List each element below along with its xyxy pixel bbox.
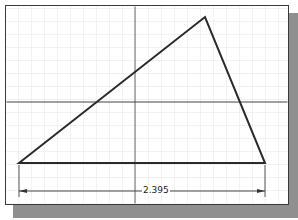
- grid: [6, 6, 289, 204]
- dimension-label[interactable]: 2.395: [142, 185, 170, 195]
